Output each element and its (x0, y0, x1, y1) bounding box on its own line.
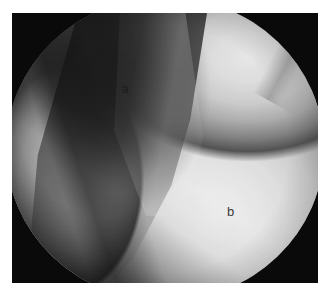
photograph-frame: a b (12, 13, 318, 283)
endoscope-field-of-view (12, 13, 318, 283)
annotation-label-b: b (227, 206, 234, 218)
film-grain-overlay (12, 13, 318, 283)
annotation-label-a: a (122, 83, 129, 95)
figure-page: a b (0, 0, 328, 298)
